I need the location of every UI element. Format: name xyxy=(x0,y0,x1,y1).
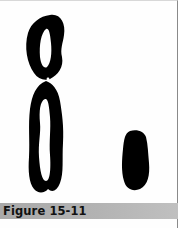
caption-bar: Figure 15-11 xyxy=(0,203,178,219)
small-chromosome xyxy=(122,130,149,190)
figure-caption: Figure 15-11 xyxy=(3,203,87,219)
figure-frame: Figure 15-11 xyxy=(0,0,178,228)
chromosome-illustration xyxy=(0,1,178,201)
large-chromosome xyxy=(26,15,64,193)
